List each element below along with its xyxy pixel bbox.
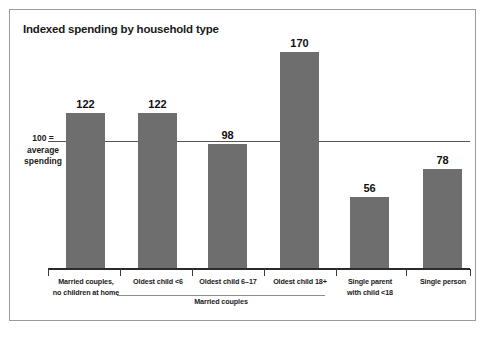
- reference-line-100: [48, 141, 470, 142]
- bar-value-label: 56: [350, 182, 389, 194]
- axis-tick: [406, 269, 407, 276]
- axis-tick: [192, 269, 193, 276]
- bar-value-label: 122: [138, 98, 177, 110]
- bar-value-label: 122: [66, 98, 105, 110]
- bar-single-parent-with-child: [350, 197, 389, 268]
- category-label-single-person: Single person: [398, 277, 488, 288]
- axis-tick: [336, 269, 337, 276]
- bar-single-person: [423, 169, 462, 268]
- group-bracket-label: Married couples: [117, 297, 325, 306]
- bar-oldest-child-under-6: [138, 113, 177, 268]
- bar-value-label: 98: [208, 129, 247, 141]
- axis-tick: [120, 269, 121, 276]
- bar-oldest-child-18-plus: [280, 52, 319, 268]
- plot-area: 100 = average spending 122 122 98 170 56…: [0, 0, 493, 339]
- group-bracket-line: [117, 295, 325, 296]
- reference-line-label: 100 = average spending: [16, 133, 70, 168]
- bar-married-couples-no-children: [66, 113, 105, 268]
- reference-label-line-3: spending: [16, 156, 70, 168]
- bar-oldest-child-6-17: [208, 144, 247, 268]
- category-label-line-2: with child <18: [324, 288, 416, 299]
- chart-figure: Indexed spending by household type 100 =…: [0, 0, 493, 339]
- bar-value-label: 78: [423, 154, 462, 166]
- bar-value-label: 170: [280, 37, 319, 49]
- category-label-line-1: Single person: [398, 277, 488, 288]
- axis-tick: [48, 269, 49, 276]
- axis-tick: [470, 269, 471, 276]
- reference-label-line-1: 100 =: [16, 133, 70, 145]
- reference-label-line-2: average: [16, 145, 70, 157]
- axis-tick: [264, 269, 265, 276]
